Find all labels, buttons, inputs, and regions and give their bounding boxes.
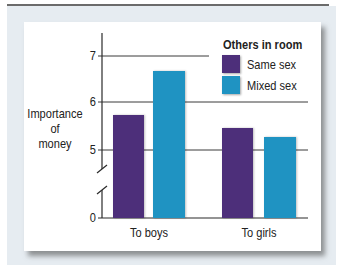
y-axis-label: Importance of money <box>21 106 89 151</box>
y-axis-label-line-1: Importance <box>21 106 89 121</box>
bar-girls-mixed-sex <box>264 137 296 218</box>
legend-label-mixed-sex: Mixed sex <box>247 78 297 93</box>
bar-girls-same-sex <box>222 128 253 218</box>
legend-label-same-sex: Same sex <box>247 57 296 72</box>
y-axis-label-line-2: of <box>21 121 89 136</box>
bar-boys-same-sex <box>113 115 144 218</box>
bar-boys-mixed-sex <box>153 71 185 218</box>
legend-swatch-same-sex <box>222 55 240 73</box>
legend-title: Others in room <box>223 37 302 52</box>
legend-swatch-mixed-sex <box>222 76 240 94</box>
category-label-boys: To boys <box>115 225 183 240</box>
category-label-girls: To girls <box>225 225 293 240</box>
ytick-0: 0 <box>79 210 96 225</box>
ytick-7: 7 <box>79 48 96 63</box>
y-axis-label-line-3: money <box>21 136 89 151</box>
